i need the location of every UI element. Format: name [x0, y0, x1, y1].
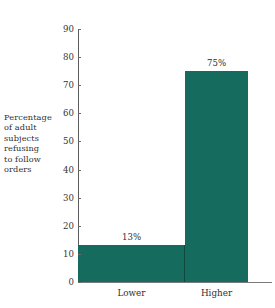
y-axis-tick-label: 90: [48, 25, 74, 34]
y-axis-tick-mark: [78, 226, 81, 227]
bar-lower[interactable]: [78, 245, 185, 282]
y-axis-tick-mark: [78, 170, 81, 171]
y-axis-tick-mark: [78, 57, 81, 58]
y-axis-tick-label: 60: [48, 109, 74, 118]
y-axis-tick-label: 10: [48, 250, 74, 259]
x-axis-line: [78, 282, 272, 283]
y-axis-tick-mark: [78, 141, 81, 142]
y-axis-tick-mark: [78, 254, 81, 255]
y-axis-tick-label: 40: [48, 165, 74, 174]
y-axis-tick-group: 0102030405060708090: [48, 0, 74, 308]
y-axis-tick-label: 70: [48, 81, 74, 90]
y-axis-tick-mark: [78, 198, 81, 199]
y-axis-tick-label: 30: [48, 193, 74, 202]
x-axis-category-label: Higher: [201, 289, 232, 298]
y-axis-tick-mark: [78, 85, 81, 86]
y-axis-tick-label: 50: [48, 137, 74, 146]
bar-value-label: 75%: [207, 59, 226, 68]
x-axis-category-label: Lower: [117, 289, 145, 298]
y-axis-tick-mark: [78, 29, 81, 30]
bar-value-label: 13%: [122, 233, 141, 242]
bar-chart: Percentage of adult subjects refusing to…: [0, 0, 275, 308]
y-axis-tick-mark: [78, 113, 81, 114]
y-axis-tick-label: 0: [48, 278, 74, 287]
y-axis-tick-label: 20: [48, 221, 74, 230]
y-axis-tick-mark: [78, 282, 81, 283]
y-axis-tick-label: 80: [48, 53, 74, 62]
bar-higher[interactable]: [185, 71, 248, 282]
